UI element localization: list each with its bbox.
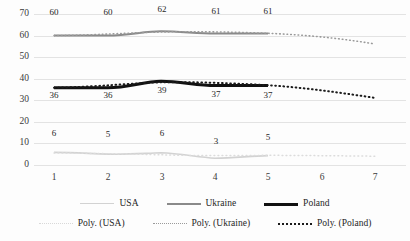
data-label-ukraine-3: 62 <box>149 5 175 14</box>
legend-label-poland: Poland <box>303 198 329 208</box>
y-axis-tick-20: 20 <box>0 117 29 127</box>
legend-swatch-poly-poland-icon <box>278 220 312 226</box>
x-axis-tick-1: 1 <box>39 172 69 182</box>
data-label-usa-5: 5 <box>255 133 281 142</box>
data-label-poland-4: 37 <box>203 90 229 99</box>
legend-swatch-poland-icon <box>264 200 298 206</box>
data-label-usa-4: 3 <box>203 137 229 146</box>
legend-item-usa[interactable]: USA <box>80 198 138 208</box>
legend-swatch-usa-icon <box>80 200 114 206</box>
data-label-ukraine-1: 60 <box>41 8 67 17</box>
y-axis-tick-30: 30 <box>0 95 29 105</box>
legend-label-poly-usa: Poly. (USA) <box>78 218 125 228</box>
legend-item-poly-usa[interactable]: Poly. (USA) <box>39 218 125 228</box>
x-axis-tick-5: 5 <box>253 172 283 182</box>
legend-item-poly-ukraine[interactable]: Poly. (Ukraine) <box>153 218 250 228</box>
legend-item-poly-poland[interactable]: Poly. (Poland) <box>278 218 371 228</box>
y-axis-tick-10: 10 <box>0 138 29 148</box>
x-axis-tick-7: 7 <box>360 172 390 182</box>
legend-label-poly-poland: Poly. (Poland) <box>317 218 371 228</box>
legend-label-poly-ukraine: Poly. (Ukraine) <box>192 218 250 228</box>
x-axis-tick-2: 2 <box>93 172 123 182</box>
y-axis-tick-70: 70 <box>0 9 29 19</box>
y-axis-tick-40: 40 <box>0 74 29 84</box>
line-chart: 70 60 50 40 30 20 10 0 60 60 62 61 61 36… <box>0 0 410 241</box>
legend-item-ukraine[interactable]: Ukraine <box>167 198 237 208</box>
legend-row-series: USA Ukraine Poland <box>0 194 410 211</box>
legend-label-usa: USA <box>119 198 138 208</box>
data-label-ukraine-2: 60 <box>95 8 121 17</box>
data-label-poland-1: 36 <box>41 91 67 100</box>
data-label-poland-5: 37 <box>255 91 281 100</box>
legend-swatch-poly-usa-icon <box>39 220 73 226</box>
y-axis-tick-60: 60 <box>0 31 29 41</box>
chart-legend: USA Ukraine Poland Poly. (USA) Poly. (Uk… <box>0 192 410 240</box>
data-label-usa-3: 6 <box>149 129 175 138</box>
data-label-poland-2: 36 <box>95 91 121 100</box>
y-axis-tick-0: 0 <box>0 160 29 170</box>
legend-item-poland[interactable]: Poland <box>264 198 329 208</box>
legend-row-trendlines: Poly. (USA) Poly. (Ukraine) Poly. (Polan… <box>0 214 410 231</box>
data-label-poland-3: 39 <box>149 86 175 95</box>
x-axis-tick-4: 4 <box>200 172 230 182</box>
x-axis-tick-3: 3 <box>147 172 177 182</box>
legend-label-ukraine: Ukraine <box>206 198 237 208</box>
data-label-usa-2: 5 <box>95 130 121 139</box>
x-axis-tick-6: 6 <box>307 172 337 182</box>
legend-swatch-poly-ukraine-icon <box>153 220 187 226</box>
data-label-ukraine-5: 61 <box>255 7 281 16</box>
gridline-0 <box>34 165 406 166</box>
y-axis-tick-50: 50 <box>0 52 29 62</box>
data-label-ukraine-4: 61 <box>203 7 229 16</box>
data-label-usa-1: 6 <box>41 129 67 138</box>
legend-swatch-ukraine-icon <box>167 200 201 206</box>
